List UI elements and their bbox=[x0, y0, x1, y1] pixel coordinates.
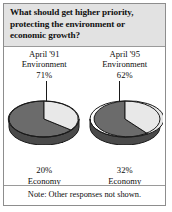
chart-top-label-left: April '91 Environment 71% bbox=[4, 49, 85, 80]
title-band: What should get higher priority, protect… bbox=[4, 4, 165, 47]
chart-date-right: April '95 bbox=[110, 49, 140, 59]
chart-top-value-right: 62% bbox=[85, 70, 166, 80]
chart-panel-april-91: April '91 Environment 71% bbox=[4, 47, 85, 187]
chart-bottom-label-right: 32% Economy bbox=[85, 165, 166, 186]
chart-panel-april-95: April '95 Environment 62% 32% Economy bbox=[85, 47, 166, 187]
pie-chart-april-91 bbox=[7, 93, 81, 145]
pie-svg-left bbox=[7, 93, 81, 145]
chart-top-value-left: 71% bbox=[4, 70, 85, 80]
page-title: What should get higher priority, protect… bbox=[10, 7, 162, 42]
note-band: Note: Other responses not shown. bbox=[4, 185, 165, 205]
note-text: Note: Other responses not shown. bbox=[4, 190, 165, 199]
infographic-frame: What should get higher priority, protect… bbox=[3, 3, 166, 206]
chart-area: April '91 Environment 71% bbox=[4, 47, 165, 187]
chart-date-left: April '91 bbox=[29, 49, 59, 59]
pie-svg-right bbox=[87, 93, 163, 145]
chart-bottom-label-left: 20% Economy bbox=[4, 165, 85, 186]
chart-top-category-left: Environment bbox=[22, 59, 67, 69]
chart-bottom-value-left: 20% bbox=[36, 165, 52, 175]
chart-bottom-value-right: 32% bbox=[117, 165, 133, 175]
chart-top-category-right: Environment bbox=[102, 59, 147, 69]
pie-chart-april-95 bbox=[87, 93, 163, 145]
chart-top-label-right: April '95 Environment 62% bbox=[85, 49, 166, 80]
